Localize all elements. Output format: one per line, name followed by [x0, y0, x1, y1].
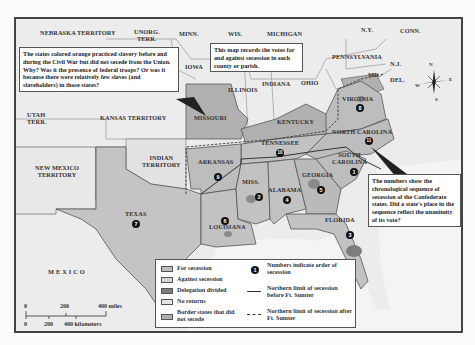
label-michigan: MICHIGAN [267, 31, 302, 38]
label-virginia: VIRGINIA [342, 96, 373, 103]
legend-order-of-secession: Numbers indicate order of secession [267, 262, 352, 276]
order-marker-arkansas: 9 [214, 173, 222, 181]
label-louisiana: LOUISIANA [209, 224, 246, 231]
order-marker-florida: 3 [346, 231, 354, 239]
label-tennessee: TENNESSEE [261, 140, 299, 147]
label-nj: N.J. [390, 61, 401, 68]
order-marker-tennessee: 10 [276, 149, 284, 157]
label-nebraska-territory: NEBRASKA TERRITORY [40, 30, 116, 37]
scale-km-200: 200 [44, 321, 53, 327]
order-marker-georgia: 5 [317, 186, 325, 194]
legend-limit-before-sumter: Northern limit of secession before Ft. S… [267, 285, 355, 299]
label-arkansas: ARKANSAS [198, 159, 233, 166]
secession-map: NEBRASKA TERRITORY UNORG. TERR. MINN. WI… [14, 17, 463, 333]
label-indiana: INDIANA [262, 81, 290, 88]
label-georgia: GEORGIA [302, 172, 333, 179]
order-marker-texas: 7 [132, 220, 140, 228]
label-del: DEL. [390, 77, 405, 84]
legend-against-secession: Against secession [177, 276, 223, 283]
label-conn: CONN. [400, 28, 421, 35]
label-illinois: ILLINOIS [228, 87, 258, 94]
label-north-carolina: NORTH CAROLINA [332, 129, 392, 136]
swatch-no-returns [161, 299, 173, 305]
map-legend: For secession Against secession Delegati… [155, 259, 356, 328]
label-new-mexico-territory: NEW MEXICO TERRITORY [35, 165, 79, 178]
scale-miles-200: 200 [60, 303, 69, 309]
label-florida: FLORIDA [325, 217, 355, 224]
label-md: MD. [368, 72, 380, 79]
legend-limit-after-sumter: Northern limit of secession after Ft. Su… [267, 308, 355, 322]
order-marker-south-carolina: 1 [350, 168, 358, 176]
scale-miles-0: 0 [24, 303, 27, 309]
order-marker-virginia: 8 [356, 104, 364, 112]
label-alabama: ALABAMA [268, 187, 301, 194]
order-marker-alabama: 4 [283, 196, 291, 204]
scale-km-0: 0 [24, 321, 27, 327]
swatch-delegation-divided [161, 288, 173, 294]
label-miss: MISS. [242, 179, 259, 186]
scale-km-400: 400 kilometers [64, 321, 102, 327]
callout-votes: This map records the votes for and again… [210, 43, 303, 72]
compass-w: W [415, 83, 420, 88]
label-ny: N.Y. [361, 27, 373, 34]
swatch-for-secession [161, 266, 173, 272]
order-marker-louisiana: 6 [221, 217, 229, 225]
label-south-carolina: SOUTH CAROLINA [332, 152, 367, 165]
legend-delegation-divided: Delegation divided [177, 287, 226, 294]
swatch-border-states [161, 314, 173, 320]
legend-order-number-icon: 1 [251, 266, 259, 274]
order-marker-north-carolina: 11 [365, 137, 373, 145]
label-wis: WIS. [228, 31, 242, 38]
scale-miles-400: 400 miles [98, 303, 122, 309]
swatch-against-secession [161, 277, 173, 283]
label-unorg-terr: UNORG. TERR. [134, 29, 160, 42]
compass-s: S [435, 97, 438, 102]
label-kansas-territory: KANSAS TERRITORY [100, 115, 166, 122]
label-ohio: OHIO [301, 80, 319, 87]
callout-sequence: The numbers show the chronological seque… [368, 174, 461, 227]
dashed-line-icon [247, 314, 261, 315]
label-kentucky: KENTUCKY [277, 119, 314, 126]
label-pennsylvania: PENNSYLVANIA [332, 54, 382, 61]
order-marker-mississippi: 2 [255, 193, 263, 201]
label-texas: TEXAS [125, 211, 147, 218]
label-mexico: MEXICO [48, 269, 87, 276]
legend-no-returns: No returns [177, 298, 206, 305]
compass-n: N [429, 62, 433, 67]
callout-border-states: The states colored orange practiced slav… [19, 47, 179, 92]
solid-line-icon [247, 291, 261, 292]
label-indian-territory: INDIAN TERRITORY [142, 155, 181, 168]
label-minn: MINN. [179, 31, 199, 38]
legend-border-states: Border states that did not secede [177, 309, 237, 323]
label-utah-terr: UTAH TERR. [27, 112, 47, 125]
legend-for-secession: For secession [177, 265, 212, 272]
label-missouri: MISSOURI [194, 115, 227, 122]
label-iowa: IOWA [185, 64, 203, 71]
compass-e: E [449, 77, 452, 82]
